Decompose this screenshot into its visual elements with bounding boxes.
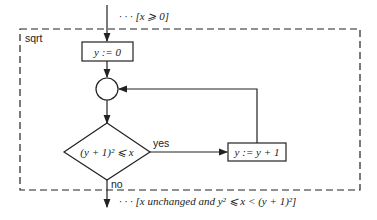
init-box-label: y := 0	[93, 46, 121, 58]
junction-node	[96, 78, 118, 100]
module-title: sqrt	[25, 32, 43, 44]
no-label: no	[111, 178, 123, 190]
postcondition-label: · · · [x unchanged and y² ⩽ x < (y + 1)²…	[119, 195, 296, 208]
flowchart-canvas: sqrt · · · [x ⩾ 0] y := 0 (y + 1)² ⩽ x y…	[0, 0, 377, 220]
module-boundary	[20, 29, 360, 190]
yes-label: yes	[153, 137, 169, 149]
condition-label: (y + 1)² ⩽ x	[80, 146, 133, 159]
precondition-label: · · · [x ⩾ 0]	[119, 10, 169, 22]
loop-back-arrow	[119, 89, 257, 143]
increment-box-label: y := y + 1	[234, 146, 280, 158]
